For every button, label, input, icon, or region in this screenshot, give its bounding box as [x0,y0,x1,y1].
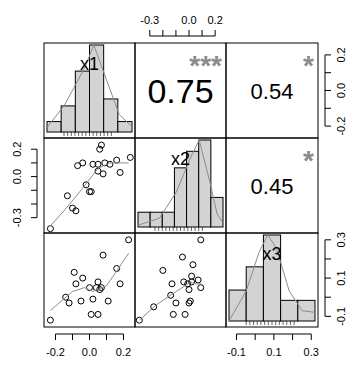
top-axis-x2: -0.30.00.2 [140,14,223,36]
correlation-cell: 0.45* [251,145,315,199]
histogram-bar [47,122,61,132]
data-point [195,277,201,283]
histogram-bar [174,168,186,227]
tick-label: -0.1 [227,346,246,358]
data-point [64,193,70,199]
data-point [80,160,86,166]
data-point [186,287,192,293]
histogram-x3: x3 [229,235,315,325]
tick-label: 0.0 [181,14,196,26]
diag-label-x2: x2 [171,149,190,169]
histogram-bar [162,212,174,227]
data-point [95,279,101,285]
data-point [114,157,120,163]
data-point [170,311,176,317]
significance-stars: *** [189,50,222,81]
data-point [169,281,175,287]
data-point [190,262,196,268]
histogram-x2: x2 [138,140,223,231]
data-point [73,281,79,287]
data-point [100,171,106,177]
data-point [71,269,77,275]
tick-label: 0.2 [335,47,347,62]
tick-label: 0.0 [335,83,347,98]
data-point [80,275,86,281]
significance-stars: * [303,145,314,176]
tick-label: 0.0 [82,346,97,358]
data-point [182,311,188,317]
data-point [95,311,101,317]
correlation-cell: 0.54* [251,50,315,104]
data-point [198,285,204,291]
correlation-value: 0.45 [251,174,294,199]
data-point [78,298,84,304]
smooth-line [50,253,128,310]
panel-border [135,233,226,327]
diag-label-x3: x3 [262,244,281,264]
data-point [90,296,96,302]
histogram-bar [246,267,263,321]
data-point [187,298,193,304]
significance-stars: * [303,50,314,81]
tick-label: 0.1 [266,346,281,358]
tick-label: 0.1 [335,270,347,285]
data-point [198,237,204,243]
tick-label: 0.2 [116,346,131,358]
data-point [189,273,195,279]
bottom-axis-x1: -0.20.00.2 [46,334,131,358]
histogram-bar [61,106,75,132]
scatter-x3-vs-x2 [136,237,203,323]
data-point [126,237,132,243]
data-point [66,300,72,306]
data-point [160,267,166,273]
right-axis-x3: 0.30.1-0.1 [325,232,347,326]
left-axis-x2: 0.20.0-0.3 [11,142,37,228]
tick-label: 0.2 [208,14,223,26]
tick-label: 0.3 [335,232,347,247]
histogram-bar [118,122,132,132]
data-point [127,154,133,160]
correlation-cell: 0.75*** [147,50,222,110]
tick-label: -0.2 [335,117,347,136]
tick-label: -0.3 [11,208,23,227]
scatter-x3-vs-x1 [47,237,131,323]
correlation-value: 0.54 [251,79,294,104]
diag-label-x1: x1 [80,54,99,74]
tick-label: 0.0 [11,169,23,184]
histogram-bar [298,300,315,321]
data-point [117,169,123,175]
data-point [88,311,94,317]
chart-canvas: x1x2x30.75***0.54*0.45*-0.30.00.2-0.20.0… [0,0,359,373]
tick-label: -0.3 [140,14,159,26]
correlation-matrix-chart: x1x2x30.75***0.54*0.45*-0.30.00.2-0.20.0… [0,0,359,373]
panel-border [44,233,135,327]
data-point [47,317,53,323]
data-point [179,254,185,260]
histogram-x1: x1 [47,45,132,136]
right-axis-x1: 0.20.0-0.2 [325,47,347,135]
data-point [117,281,123,287]
data-point [100,252,106,258]
tick-label: -0.1 [335,307,347,326]
scatter-x2-vs-x1 [47,142,133,232]
data-point [105,298,111,304]
histogram-bar [281,300,298,321]
tick-label: 0.3 [304,346,319,358]
data-point [47,226,53,232]
tick-label: -0.2 [46,346,65,358]
data-point [173,300,179,306]
bottom-axis-x3: -0.10.10.3 [227,334,319,358]
tick-label: 0.2 [11,142,23,157]
histogram-bar [199,140,211,227]
